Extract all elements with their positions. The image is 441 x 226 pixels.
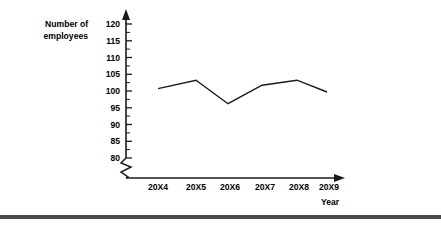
employees-line-chart: 120 115 110 105 100 95 90 85 80 Number o… xyxy=(0,0,441,226)
x-tick-label: 20X6 xyxy=(220,182,240,192)
y-tick-label: 105 xyxy=(106,69,121,79)
y-axis xyxy=(122,9,130,158)
x-tick-label: 20X8 xyxy=(289,182,309,192)
y-axis-title-line2: employees xyxy=(44,31,89,41)
x-axis-arrow-icon xyxy=(334,174,345,182)
y-tick-label: 120 xyxy=(106,19,121,29)
x-tick-label: 20X4 xyxy=(148,182,168,192)
x-tick-label: 20X5 xyxy=(186,182,206,192)
y-tick-labels: 120 115 110 105 100 95 90 85 80 xyxy=(106,19,121,163)
y-axis-ticks xyxy=(126,24,132,158)
x-tick-label: 20X7 xyxy=(255,182,275,192)
bottom-divider xyxy=(0,215,441,219)
y-tick-label: 110 xyxy=(106,53,120,63)
y-axis-title: Number of employees xyxy=(44,19,89,41)
y-tick-label: 85 xyxy=(110,136,120,146)
x-axis-title: Year xyxy=(321,197,340,207)
y-tick-label: 90 xyxy=(110,120,120,130)
y-axis-break-icon xyxy=(121,158,131,178)
y-tick-label: 100 xyxy=(106,86,121,96)
x-tick-labels: 20X4 20X5 20X6 20X7 20X8 20X9 xyxy=(148,182,339,192)
y-axis-arrow-icon xyxy=(122,9,130,20)
y-tick-label: 115 xyxy=(106,36,120,46)
x-tick-label: 20X9 xyxy=(319,182,339,192)
x-axis xyxy=(126,174,345,182)
data-series-line xyxy=(158,80,327,104)
y-tick-label: 95 xyxy=(110,103,120,113)
chart-svg: 120 115 110 105 100 95 90 85 80 Number o… xyxy=(0,0,441,226)
y-tick-label: 80 xyxy=(110,153,120,163)
y-axis-title-line1: Number of xyxy=(45,19,88,29)
